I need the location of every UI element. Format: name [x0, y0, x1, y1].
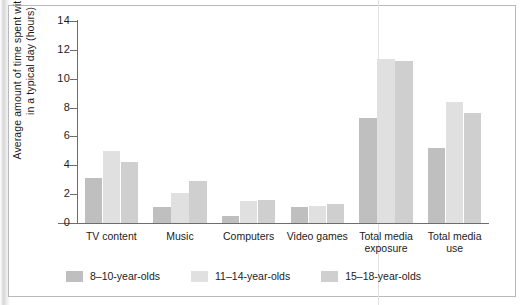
y-tick-label: 0: [50, 216, 70, 228]
y-tick-label: 4: [50, 158, 70, 170]
y-tick-label: 10: [50, 72, 70, 84]
y-tick-mark: [70, 108, 77, 109]
legend-item: 15–18-year-olds: [321, 270, 421, 282]
y-tick-label: 2: [50, 187, 70, 199]
y-tick-label: 12: [50, 43, 70, 55]
bar: [359, 118, 377, 223]
legend-swatch: [321, 271, 338, 282]
bar: [309, 206, 327, 223]
y-tick-label: 14: [50, 14, 70, 26]
legend-label: 8–10-year-olds: [90, 270, 160, 282]
bar: [189, 181, 207, 223]
y-tick-mark: [70, 194, 77, 195]
y-tick-mark: [70, 21, 77, 22]
chart-figure: 02468101214 Average amount of time spent…: [0, 0, 524, 305]
bar: [121, 162, 139, 223]
legend-item: 8–10-year-olds: [66, 270, 160, 282]
legend-swatch: [66, 271, 83, 282]
bar: [153, 207, 171, 223]
y-tick-mark: [70, 223, 77, 224]
y-tick-label: 8: [50, 101, 70, 113]
bar: [85, 178, 103, 223]
bar: [428, 148, 446, 223]
bar: [395, 61, 413, 223]
bar: [258, 200, 276, 223]
bar: [327, 204, 345, 223]
bar: [446, 102, 464, 223]
y-tick-mark: [70, 136, 77, 137]
y-axis-label: Average amount of time spent with media …: [11, 0, 37, 161]
y-tick-mark: [70, 50, 77, 51]
bar: [222, 216, 240, 223]
legend-swatch: [191, 271, 208, 282]
x-axis-line: [58, 223, 489, 224]
chart-legend: 8–10-year-olds11–14-year-olds15–18-year-…: [66, 270, 452, 282]
plot-area: [77, 21, 489, 223]
y-tick-mark: [70, 79, 77, 80]
bar: [377, 59, 395, 223]
bar: [171, 193, 189, 223]
legend-label: 11–14-year-olds: [215, 270, 290, 282]
bar: [240, 201, 258, 223]
bar: [103, 151, 121, 223]
legend-label: 15–18-year-olds: [345, 270, 421, 282]
legend-item: 11–14-year-olds: [191, 270, 290, 282]
bar: [291, 207, 309, 223]
bar: [464, 113, 482, 223]
x-category-label: Total mediause: [410, 230, 500, 254]
y-tick-label: 6: [50, 129, 70, 141]
y-tick-mark: [70, 165, 77, 166]
